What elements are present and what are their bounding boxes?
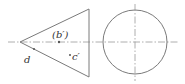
point-c-prime	[69, 54, 71, 56]
point-b-prime	[58, 41, 60, 43]
cone-triangle	[20, 9, 89, 77]
label-d: d	[24, 54, 30, 65]
point-d	[33, 48, 35, 50]
projection-diagram: (b′) d c′	[0, 0, 185, 84]
diagram-svg: (b′) d c′	[0, 0, 185, 84]
label-b-prime: (b′)	[52, 29, 69, 40]
label-c-prime: c′	[72, 51, 81, 62]
